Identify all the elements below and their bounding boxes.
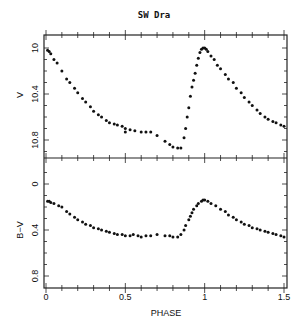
data-point	[240, 220, 243, 223]
data-point	[256, 109, 259, 112]
data-point	[132, 233, 135, 236]
data-point	[198, 51, 201, 54]
data-point	[124, 130, 127, 133]
data-point	[206, 200, 209, 203]
top-y-tick-label: 10.8	[30, 131, 40, 149]
data-point	[203, 199, 206, 202]
data-point	[251, 226, 254, 229]
data-point	[124, 127, 127, 130]
data-point	[186, 116, 189, 119]
x-tick-label: 1.5	[278, 292, 291, 302]
data-point	[149, 234, 152, 237]
data-point	[92, 110, 95, 113]
plot-frames	[44, 35, 287, 288]
data-point	[275, 121, 278, 124]
data-point	[65, 210, 68, 213]
data-point	[65, 78, 68, 81]
bottom-y-tick-label: 0.4	[30, 224, 40, 237]
data-point	[89, 105, 92, 108]
data-point	[189, 215, 192, 218]
data-point	[97, 113, 100, 116]
data-point	[187, 106, 190, 109]
data-point	[189, 95, 192, 98]
data-point	[279, 234, 282, 237]
data-point	[179, 233, 182, 236]
b-v-color-points	[46, 199, 285, 239]
data-point	[259, 112, 262, 115]
data-point	[113, 122, 116, 125]
data-point	[52, 202, 55, 205]
data-point	[81, 97, 84, 100]
data-point	[210, 202, 213, 205]
data-point	[248, 224, 251, 227]
data-point	[176, 235, 179, 238]
data-point	[100, 229, 103, 232]
data-point	[224, 73, 227, 76]
data-point	[263, 230, 266, 233]
data-point	[137, 234, 140, 237]
axis-ticks	[44, 30, 287, 293]
data-point	[49, 201, 52, 204]
data-point	[171, 235, 174, 238]
data-point	[235, 87, 238, 90]
data-point	[156, 233, 159, 236]
data-point	[68, 212, 71, 215]
data-point	[164, 140, 167, 143]
data-point	[108, 231, 111, 234]
data-point	[133, 129, 136, 132]
data-point	[192, 208, 195, 211]
data-point	[56, 61, 59, 64]
data-point	[283, 235, 286, 238]
data-point	[140, 235, 143, 238]
data-point	[197, 57, 200, 60]
data-point	[259, 229, 262, 232]
x-axis-label: PHASE	[151, 308, 182, 318]
data-point	[192, 79, 195, 82]
data-point	[219, 208, 222, 211]
data-point	[84, 223, 87, 226]
data-point	[144, 234, 147, 237]
data-point	[168, 143, 171, 146]
data-point	[92, 226, 95, 229]
data-point	[76, 218, 79, 221]
data-point	[113, 232, 116, 235]
data-point	[164, 234, 167, 237]
data-point	[60, 70, 63, 73]
data-point	[100, 116, 103, 119]
data-point	[73, 216, 76, 219]
data-point	[179, 147, 182, 150]
x-tick-label: 0	[43, 292, 48, 302]
data-point	[49, 52, 52, 55]
data-point	[52, 58, 55, 61]
data-point	[267, 118, 270, 121]
data-point	[240, 91, 243, 94]
data-point	[213, 58, 216, 61]
data-point	[227, 214, 230, 217]
data-point	[76, 91, 79, 94]
data-point	[183, 136, 186, 139]
top-y-axis-label: V	[15, 92, 25, 98]
x-tick-label: 1	[202, 292, 207, 302]
data-point	[81, 220, 84, 223]
data-point	[97, 227, 100, 230]
data-point	[267, 231, 270, 234]
data-point	[105, 119, 108, 122]
data-point	[129, 128, 132, 131]
data-point	[171, 145, 174, 148]
data-point	[73, 87, 76, 90]
data-point	[60, 206, 63, 209]
data-point	[108, 121, 111, 124]
data-point	[129, 234, 132, 237]
data-point	[214, 204, 217, 207]
data-point	[275, 233, 278, 236]
data-point	[190, 211, 193, 214]
data-point	[235, 218, 238, 221]
data-point	[263, 116, 266, 119]
data-point	[232, 216, 235, 219]
data-point	[232, 81, 235, 84]
data-point	[68, 81, 71, 84]
data-point	[149, 130, 152, 133]
data-point	[271, 232, 274, 235]
data-point	[121, 125, 124, 128]
data-point	[140, 130, 143, 133]
